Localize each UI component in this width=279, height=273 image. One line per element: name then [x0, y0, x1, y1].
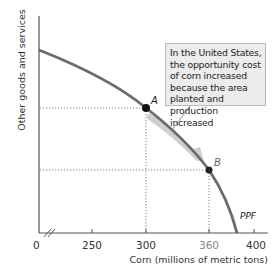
tick-label-400: 400	[246, 239, 266, 251]
x-axis-title: Corn (millions of metric tons)	[129, 254, 268, 265]
point-b-label: B	[214, 157, 221, 168]
point-a-marker	[142, 104, 150, 112]
point-b-marker	[206, 167, 213, 174]
tick-label-300: 300	[136, 239, 156, 251]
annotation-box: In the United States, the opportunity co…	[165, 43, 266, 106]
ppf-chart: 0 250 300 360 400 Corn (millions of metr…	[0, 0, 279, 273]
y-axis-title: Other goods and services	[16, 9, 27, 131]
point-a-label: A	[150, 95, 158, 106]
tick-label-250: 250	[82, 239, 102, 251]
tick-label-0: 0	[33, 239, 40, 251]
tick-label-360: 360	[199, 239, 219, 251]
ppf-label: PPF	[240, 211, 257, 221]
